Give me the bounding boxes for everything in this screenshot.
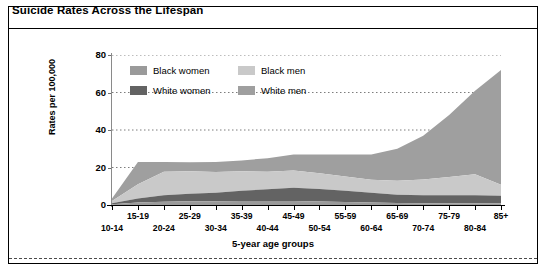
x-tick-mark	[268, 206, 269, 210]
legend-swatch-icon	[238, 86, 255, 95]
x-tick-label: 55-59	[334, 211, 356, 221]
x-tick-label: 10-14	[101, 223, 123, 233]
x-tick-label: 70-74	[412, 223, 434, 233]
legend-swatch-icon	[238, 66, 255, 75]
x-tick-mark	[319, 206, 320, 210]
x-tick-mark	[449, 206, 450, 210]
x-tick-label: 15-19	[127, 211, 149, 221]
x-tick-label: 35-39	[231, 211, 253, 221]
x-tick-label: 75-79	[438, 211, 460, 221]
figure-panel: Suicide Rates Across the Lifespan Rates …	[0, 0, 546, 274]
x-tick-label: 25-29	[179, 211, 201, 221]
x-tick-label: 20-24	[153, 223, 175, 233]
legend-item: Black men	[238, 65, 346, 76]
legend-item: White women	[130, 85, 238, 96]
legend-label: White women	[153, 85, 211, 96]
x-tick-label: 60-64	[360, 223, 382, 233]
y-tick-label: 0	[80, 199, 106, 210]
legend-label: Black women	[153, 65, 210, 76]
x-tick-label: 65-69	[386, 211, 408, 221]
x-tick-label: 50-54	[308, 223, 330, 233]
x-tick-label: 40-44	[257, 223, 279, 233]
legend-label: White men	[261, 85, 306, 96]
legend-swatch-icon	[130, 86, 147, 95]
chart-legend: Black womenBlack menWhite womenWhite men	[130, 60, 355, 100]
x-tick-mark	[371, 206, 372, 210]
x-tick-mark	[423, 206, 424, 210]
y-tick-label: 20	[80, 162, 106, 173]
y-tick-label: 60	[80, 87, 106, 98]
x-tick-mark	[138, 206, 139, 210]
legend-item: White men	[238, 85, 346, 96]
legend-swatch-icon	[130, 66, 147, 75]
x-tick-label: 45-49	[283, 211, 305, 221]
x-tick-mark	[345, 206, 346, 210]
x-tick-mark	[294, 206, 295, 210]
x-axis-line	[107, 205, 505, 206]
x-tick-mark	[190, 206, 191, 210]
x-axis-title: 5-year age groups	[0, 238, 546, 249]
x-tick-mark	[501, 206, 502, 210]
legend-item: Black women	[130, 65, 238, 76]
x-tick-mark	[216, 206, 217, 210]
y-axis-title: Rates per 100,000	[47, 37, 57, 157]
y-tick-label: 40	[80, 124, 106, 135]
panel-title: Suicide Rates Across the Lifespan	[12, 4, 203, 16]
x-tick-mark	[164, 206, 165, 210]
x-tick-mark	[397, 206, 398, 210]
x-tick-mark	[112, 206, 113, 210]
x-tick-label: 85+	[494, 211, 509, 221]
x-tick-mark	[475, 206, 476, 210]
x-tick-mark	[242, 206, 243, 210]
x-tick-label: 30-34	[205, 223, 227, 233]
y-tick-label: 80	[80, 49, 106, 60]
footer-divider	[9, 258, 537, 259]
legend-label: Black men	[261, 65, 305, 76]
y-axis-line	[111, 53, 112, 207]
x-tick-label: 80-84	[464, 223, 486, 233]
